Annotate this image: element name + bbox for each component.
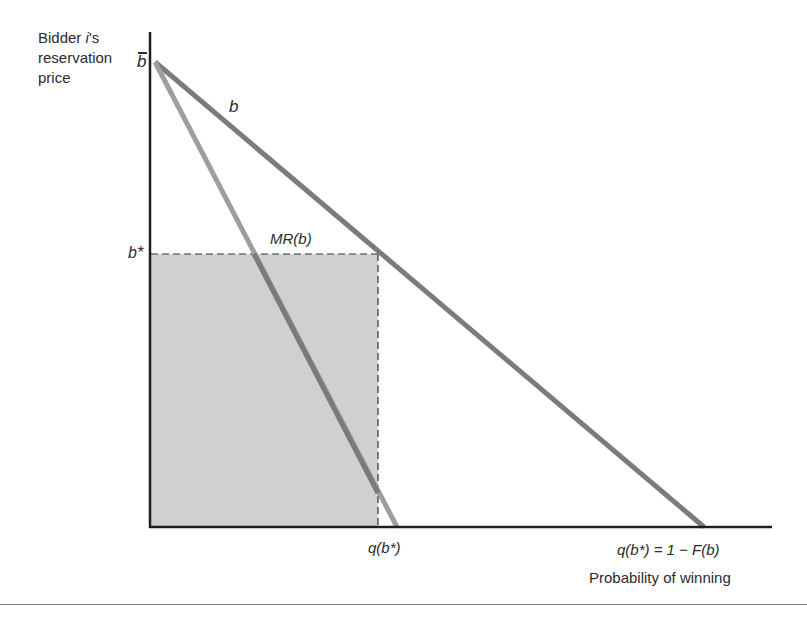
y-label-line3: price [38,68,128,88]
b-bar-tick-label: b [137,52,147,71]
x-axis-label: Probability of winning [589,569,731,587]
bottom-divider [0,604,807,605]
y-label-suffix: 's [89,29,99,46]
shaded-revenue-area [151,254,378,527]
diagram-canvas [0,0,807,620]
y-label-prefix: Bidder [38,29,86,46]
q-b-star-tick-label: q(b*) [368,539,401,557]
mr-curve-label: MR(b) [270,230,312,248]
q-full-tick-label: q(b*) = 1 − F(b) [617,541,720,559]
demand-curve-label: b [229,98,238,116]
b-bar-text: b [137,52,146,71]
y-label-line2: reservation [38,48,128,68]
b-star-tick-label: b* [128,244,143,262]
auction-diagram: Bidder i's reservation price b b* b MR(b… [0,0,807,620]
y-axis-label: Bidder i's reservation price [38,28,128,88]
